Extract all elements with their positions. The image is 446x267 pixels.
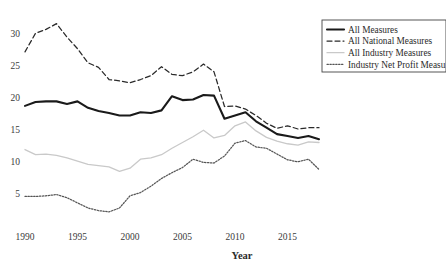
y-tick-label: 5 bbox=[15, 189, 20, 199]
legend-label-0: All Measures bbox=[348, 25, 398, 35]
legend-label-1: All National Measures bbox=[348, 36, 433, 46]
x-tick-label: 2010 bbox=[226, 232, 245, 242]
chart-canvas: 51015202530 199019952000200520102015 Yea… bbox=[0, 0, 446, 267]
x-tick-label: 1995 bbox=[68, 232, 87, 242]
y-tick-label: 15 bbox=[11, 125, 21, 135]
y-tick-label: 20 bbox=[11, 93, 21, 103]
y-tick-label: 30 bbox=[11, 29, 21, 39]
x-tick-label: 2000 bbox=[121, 232, 140, 242]
x-tick-label: 2005 bbox=[173, 232, 192, 242]
x-tick-label: 1990 bbox=[16, 232, 35, 242]
x-tick-label: 2015 bbox=[278, 232, 297, 242]
chart-legend: All MeasuresAll National MeasuresAll Ind… bbox=[322, 20, 446, 72]
y-tick-label: 25 bbox=[11, 61, 21, 71]
x-axis-title: Year bbox=[232, 250, 253, 261]
legend-label-2: All Industry Measures bbox=[348, 48, 432, 58]
legend-label-3: Industry Net Profit Measu bbox=[348, 60, 446, 70]
line-chart: 51015202530 199019952000200520102015 Yea… bbox=[0, 0, 446, 267]
y-tick-label: 10 bbox=[11, 157, 21, 167]
